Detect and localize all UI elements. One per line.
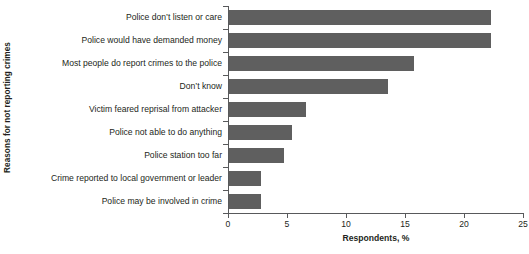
- bar-track: [229, 125, 524, 140]
- category-tick: [223, 190, 228, 191]
- x-tick: [228, 214, 229, 218]
- bar: [229, 194, 261, 209]
- bar-row: Police would have demanded money: [0, 29, 529, 52]
- x-tick-label: 15: [400, 219, 410, 229]
- category-label: Police don’t listen or care: [126, 6, 222, 29]
- x-tick-label: 20: [459, 219, 469, 229]
- category-label: Most people do report crimes to the poli…: [62, 52, 222, 75]
- x-tick-label: 5: [285, 219, 290, 229]
- bar-track: [229, 102, 524, 117]
- bar: [229, 10, 491, 25]
- category-label: Don’t know: [179, 75, 222, 98]
- bar: [229, 56, 414, 71]
- bar-row: Police station too far: [0, 144, 529, 167]
- category-tick: [223, 29, 228, 30]
- category-tick: [223, 75, 228, 76]
- bar: [229, 102, 306, 117]
- x-tick-label: 25: [518, 219, 528, 229]
- x-tick: [464, 214, 465, 218]
- x-axis-tick-labels: 0510152025: [228, 219, 524, 231]
- category-tick: [223, 98, 228, 99]
- bar-row: Most people do report crimes to the poli…: [0, 52, 529, 75]
- x-tick: [346, 214, 347, 218]
- bar-rows: Police don’t listen or carePolice would …: [0, 6, 529, 213]
- bar-chart: Reasons for not reporting crimes Police …: [0, 0, 529, 254]
- x-tick-label: 10: [341, 219, 351, 229]
- x-tick: [523, 214, 524, 218]
- category-label: Police not able to do anything: [109, 121, 222, 144]
- bar-row: Don’t know: [0, 75, 529, 98]
- bar-row: Police don’t listen or care: [0, 6, 529, 29]
- x-tick: [405, 214, 406, 218]
- bar-row: Police may be involved in crime: [0, 190, 529, 213]
- category-label: Police may be involved in crime: [102, 190, 222, 213]
- bar-track: [229, 33, 524, 48]
- x-axis-title: Respondents, %: [228, 233, 524, 243]
- category-label: Police station too far: [144, 144, 222, 167]
- bar: [229, 125, 292, 140]
- bar-track: [229, 56, 524, 71]
- x-tick-label: 0: [226, 219, 231, 229]
- category-label: Crime reported to local government or le…: [51, 167, 222, 190]
- category-tick: [223, 144, 228, 145]
- x-tick: [287, 214, 288, 218]
- bar-track: [229, 171, 524, 186]
- category-tick: [223, 121, 228, 122]
- bar: [229, 148, 284, 163]
- bar-track: [229, 148, 524, 163]
- category-label: Police would have demanded money: [82, 29, 222, 52]
- bar: [229, 171, 261, 186]
- category-tick: [223, 167, 228, 168]
- bar: [229, 33, 491, 48]
- category-label: Victim feared reprisal from attacker: [89, 98, 222, 121]
- category-tick: [223, 52, 228, 53]
- bar-track: [229, 79, 524, 94]
- bar: [229, 79, 388, 94]
- bar-row: Crime reported to local government or le…: [0, 167, 529, 190]
- bar-track: [229, 10, 524, 25]
- bar-track: [229, 194, 524, 209]
- category-tick: [223, 6, 228, 7]
- bar-row: Victim feared reprisal from attacker: [0, 98, 529, 121]
- bar-row: Police not able to do anything: [0, 121, 529, 144]
